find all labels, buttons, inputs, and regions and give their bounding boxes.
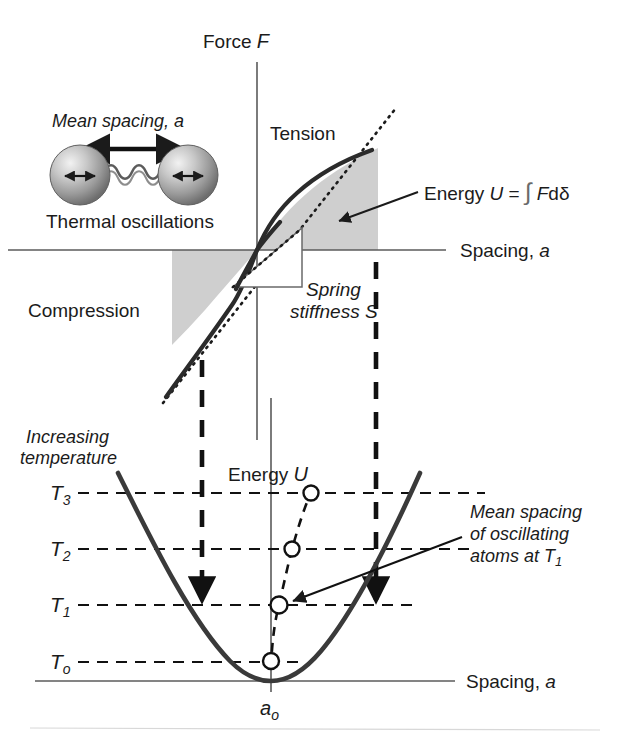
thermal-oscillations-label: Thermal oscillations	[46, 211, 214, 232]
mean-spacing-note-line2: of oscillating	[470, 524, 569, 544]
mean-spacing-dashed-curve	[271, 493, 311, 668]
mean-spacing-marker-T3	[304, 486, 319, 501]
force-x-axis-label: Spacing, a	[460, 240, 550, 261]
energy-y-axis-label: Energy U	[228, 463, 308, 485]
temperature-label-T0: To	[50, 650, 71, 677]
tension-label: Tension	[270, 123, 336, 144]
increasing-temperature-label-line2: temperature	[20, 448, 117, 468]
energy-integral-label: Energy U = ∫ Fdδ	[424, 178, 570, 206]
force-y-axis-label: Force F	[203, 30, 271, 52]
mean-spacing-marker-T0	[263, 653, 279, 669]
mean-spacing-marker-T1	[271, 597, 288, 614]
energy-x-axis-label: Spacing, a	[466, 671, 556, 692]
temperature-label-T3: T3	[50, 481, 71, 508]
temperature-label-T1: T1	[50, 593, 71, 620]
mean-spacing-marker-T2	[285, 542, 300, 557]
temperature-label-T2: T2	[50, 537, 71, 564]
tension-energy-shade	[257, 148, 378, 250]
compression-label: Compression	[28, 300, 140, 321]
mean-spacing-note-line1: Mean spacing	[470, 502, 582, 522]
spring-stiffness-label-line2: stiffness S	[290, 301, 378, 322]
diagram-canvas: Force F Tension Compression Spacing, a E…	[0, 0, 625, 735]
figure-root: Force F Tension Compression Spacing, a E…	[0, 0, 625, 735]
mean-spacing-inset-label: Mean spacing, a	[52, 111, 184, 131]
origin-spacing-label: ao	[260, 697, 279, 723]
spring-stiffness-label-line1: Spring	[306, 279, 361, 300]
increasing-temperature-label-line1: Increasing	[26, 427, 109, 447]
mean-spacing-note-line3: atoms at T1	[470, 546, 562, 569]
atom-pair-inset: Mean spacing, a Thermal oscillations	[46, 111, 218, 232]
page-bottom-rule	[30, 728, 600, 730]
